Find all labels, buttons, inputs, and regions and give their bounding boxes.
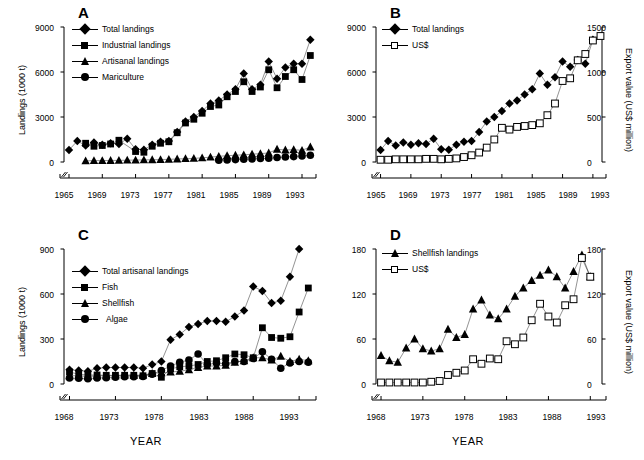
panel-a: A Landings (1000 t) 9000 6000 3000 0 Tot… (0, 0, 330, 228)
panel-d-xtick-1993: 1993 (576, 412, 616, 422)
figure-four-panel-fisheries: A Landings (1000 t) 9000 6000 3000 0 Tot… (0, 0, 644, 460)
panel-a-xtick-1993: 1993 (275, 190, 315, 200)
panel-d-plot-area (322, 222, 644, 432)
panel-c-xtick-1968: 1968 (44, 412, 84, 422)
panel-c-xtick-1993: 1993 (269, 412, 309, 422)
panel-a-plot-area (0, 0, 330, 210)
panel-b: B Export value (US$ million) 9000 6000 3… (322, 0, 644, 228)
panel-d-xtick-1988: 1988 (532, 412, 572, 422)
panel-c-plot-area (0, 222, 330, 432)
panel-b-plot-area (322, 0, 644, 210)
panel-d-xtick-1978: 1978 (444, 412, 484, 422)
panel-d-xtick-1968: 1968 (356, 412, 396, 422)
panel-c-x-axis-title: YEAR (130, 435, 162, 447)
panel-c-xtick-1983: 1983 (179, 412, 219, 422)
panel-c-xtick-1973: 1973 (89, 412, 129, 422)
panel-d-xtick-1983: 1983 (488, 412, 528, 422)
panel-c-xtick-1988: 1988 (224, 412, 264, 422)
panel-d-x-axis-title: YEAR (452, 435, 484, 447)
panel-c: C Landings (1000 t) 900 600 300 0 Total … (0, 222, 330, 460)
panel-c-xtick-1978: 1978 (134, 412, 174, 422)
panel-d: D Export value (US$ million) 180 120 60 … (322, 222, 644, 460)
panel-d-xtick-1973: 1973 (400, 412, 440, 422)
panel-b-xtick-1993: 1993 (580, 190, 620, 200)
